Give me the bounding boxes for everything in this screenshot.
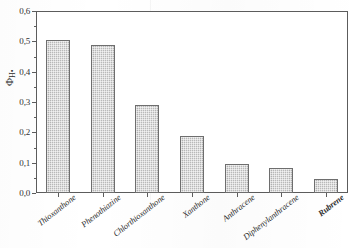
x-label-anthracene: Anthracene [220, 193, 256, 224]
x-axis-labels: ThioxanthonePhenothiazineChlorthioxantho… [36, 193, 358, 248]
bar-chart-figure: ΦH• 0,00,10,20,30,40,50,6 ThioxanthonePh… [0, 0, 358, 248]
x-label-rubrene: Rubrene [316, 193, 345, 218]
bar-chlorthioxanthone [135, 105, 159, 193]
x-label-thioxanthone: Thioxanthone [36, 193, 77, 228]
bar-series [36, 11, 348, 193]
y-tick-label: 0,2 [19, 128, 30, 137]
bar-rubrene [314, 179, 338, 193]
bar-anthracene [225, 164, 249, 193]
bar-phenothiazine [91, 45, 115, 193]
bar-thioxanthone [46, 40, 70, 193]
y-tick-label: 0,0 [19, 189, 30, 198]
y-tick-label: 0,4 [19, 67, 30, 76]
x-label-phenothiazine: Phenothiazine [80, 193, 123, 229]
y-axis-subscript: H• [8, 69, 17, 78]
y-tick-label: 0,1 [19, 158, 30, 167]
bar-xanthone [180, 136, 204, 193]
y-tick-label: 0,5 [19, 37, 30, 46]
y-axis-symbol: Φ [3, 78, 15, 86]
y-tick-label: 0,3 [19, 98, 30, 107]
bar-diphenylanthracene [269, 168, 293, 193]
plot-area: 0,00,10,20,30,40,50,6 [36, 11, 348, 193]
y-axis-title: ΦH• [4, 69, 18, 86]
x-label-xanthone: Xanthone [181, 193, 212, 220]
y-tick-label: 0,6 [19, 7, 30, 16]
